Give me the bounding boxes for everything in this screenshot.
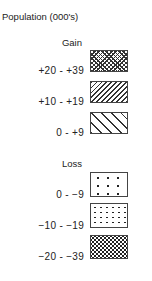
- loss-heading: Loss: [62, 158, 82, 169]
- swatch-gain-10-19: [90, 81, 128, 103]
- label-gain-20-39: +20 - +39: [38, 65, 84, 76]
- label-loss-10-19: −10 - −19: [38, 220, 84, 231]
- legend-title: Population (000's): [2, 11, 78, 22]
- label-gain-10-19: +10 - +19: [38, 96, 84, 107]
- swatch-gain-20-39: [90, 50, 128, 72]
- swatch-loss-20-39: [90, 235, 128, 259]
- swatch-loss-10-19: [90, 203, 128, 228]
- label-loss-20-39: −20 - −39: [38, 251, 84, 262]
- gain-heading: Gain: [62, 37, 82, 48]
- label-gain-0-9: 0 - +9: [56, 127, 84, 138]
- swatch-loss-0-9: [90, 172, 128, 197]
- label-loss-0-9: 0 - −9: [56, 189, 84, 200]
- swatch-gain-0-9: [90, 112, 128, 134]
